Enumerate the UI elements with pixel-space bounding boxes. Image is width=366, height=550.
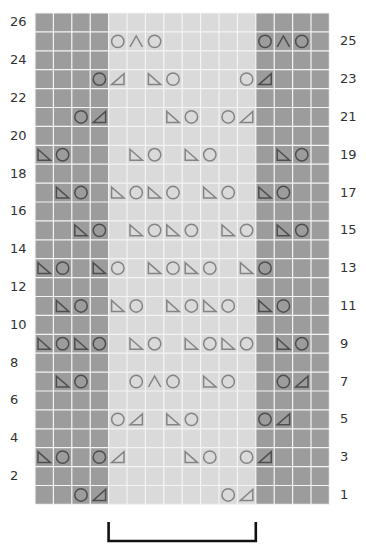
row-label-right: 19 xyxy=(340,148,357,162)
row-label-left: 18 xyxy=(10,167,27,181)
row-label-right: 1 xyxy=(340,488,348,502)
row-label-left: 22 xyxy=(10,91,27,105)
row-label-left: 24 xyxy=(10,53,27,67)
row-label-left: 12 xyxy=(10,280,27,294)
knitting-chart xyxy=(0,0,366,550)
row-label-right: 21 xyxy=(340,110,357,124)
row-label-right: 5 xyxy=(340,412,348,426)
chart-grid xyxy=(35,13,329,504)
row-label-left: 4 xyxy=(10,431,18,445)
row-label-left: 10 xyxy=(10,318,27,332)
row-label-left: 14 xyxy=(10,242,27,256)
row-label-right: 23 xyxy=(340,72,357,86)
row-label-right: 3 xyxy=(340,450,348,464)
row-label-right: 15 xyxy=(340,223,357,237)
row-label-right: 7 xyxy=(340,375,348,389)
repeat-bracket xyxy=(109,522,256,541)
row-label-left: 2 xyxy=(10,469,18,483)
row-label-right: 25 xyxy=(340,34,357,48)
row-label-right: 9 xyxy=(340,337,348,351)
row-label-right: 11 xyxy=(340,299,357,313)
row-label-left: 20 xyxy=(10,129,27,143)
row-label-left: 26 xyxy=(10,15,27,29)
row-label-left: 16 xyxy=(10,204,27,218)
row-label-right: 17 xyxy=(340,186,357,200)
row-label-left: 6 xyxy=(10,393,18,407)
row-label-left: 8 xyxy=(10,356,18,370)
row-label-right: 13 xyxy=(340,261,357,275)
